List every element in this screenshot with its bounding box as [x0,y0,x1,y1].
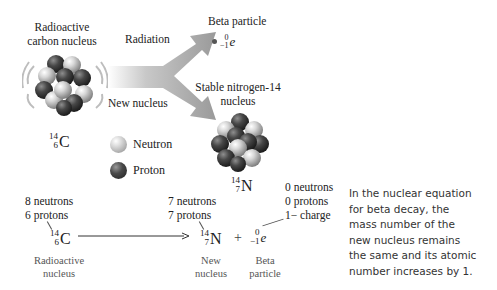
beta-neutrons: 0 neutrons [285,180,333,194]
legend-item-neutron: Neutron [110,136,172,153]
reactant-atomic: 6 [55,238,60,247]
legend: Neutron Proton [110,136,172,179]
product-caption-line2: nucleus [186,267,236,280]
reactant-caption-line2: nucleus [24,267,94,280]
carbon-title-line1: Radioactive [12,20,112,34]
legend-item-proton: Proton [110,162,172,179]
beta-caption-line2: particle [243,267,287,280]
product-symbol: 147N [200,229,222,247]
carbon-nucleus-icon [22,48,108,126]
neutron-ball-icon [110,136,127,153]
reactant-caption-line1: Radioactive [24,254,94,267]
carbon-atomic-number: 6 [54,141,59,150]
legend-proton-label: Proton [133,163,165,178]
beta-charge: 1− charge [285,208,333,222]
proton-ball-icon [110,162,127,179]
reactant-protons: 6 protons [25,208,73,222]
beta-protons: 0 protons [285,194,333,208]
radiation-label: Radiation [125,32,170,46]
reactant-symbol: 146C [50,229,71,247]
reactant-caption: Radioactive nucleus [24,254,94,280]
product-element: N [210,230,222,247]
nitrogen-symbol-top: 147N [231,176,253,194]
beta-particle-title: Beta particle [208,14,266,28]
nitrogen-element: N [241,177,253,194]
beta-eq-atomic: −1 [250,237,260,246]
product-caption-line1: New [186,254,236,267]
beta-atomic-number: −1 [220,42,229,50]
product-caption: New nucleus [186,254,236,280]
beta-counts: 0 neutrons 0 protons 1− charge [285,180,333,222]
reactant-element: C [60,230,71,247]
product-protons: 7 protons [168,208,216,222]
carbon-element: C [59,133,70,150]
carbon-symbol-top: 146C [49,132,70,150]
beta-caption-line1: Beta [243,254,287,267]
beta-symbol: 0−1e [250,228,266,246]
new-nucleus-label: New nucleus [108,96,168,110]
reactant-neutrons: 8 neutrons [25,194,73,208]
beta-caption: Beta particle [243,254,287,280]
nitrogen-atomic-number: 7 [236,185,241,194]
beta-particle-symbol-top: 0−1e [212,32,235,50]
product-neutrons: 7 neutrons [168,194,216,208]
nitrogen-title-line2: nucleus [188,94,288,108]
carbon-title-line2: carbon nucleus [12,34,112,48]
reaction-arrow-icon [78,231,190,241]
beta-decay-note: In the nuclear equation for beta decay, … [349,186,479,279]
plus-sign: + [234,230,242,246]
nitrogen-nucleus-title: Stable nitrogen-14 nucleus [188,80,288,108]
beta-dot-icon [212,39,217,44]
legend-neutron-label: Neutron [133,137,172,152]
carbon-nucleus-title: Radioactive carbon nucleus [12,20,112,48]
nitrogen-title-line1: Stable nitrogen-14 [188,80,288,94]
nitrogen-nucleus-icon [208,112,272,174]
beta-eq-element: e [261,230,267,245]
beta-pointer-line [262,219,283,227]
beta-element: e [230,34,236,49]
product-atomic: 7 [205,238,210,247]
reactant-counts: 8 neutrons 6 protons [25,194,73,222]
product-counts: 7 neutrons 7 protons [168,194,216,222]
